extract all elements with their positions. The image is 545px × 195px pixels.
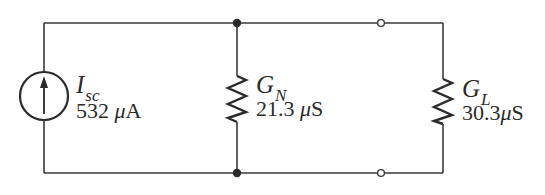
top-terminal-icon bbox=[378, 20, 385, 27]
load-symbol: GL bbox=[462, 76, 524, 101]
norton-value-unit: S bbox=[311, 96, 323, 121]
norton-symbol-subscript: N bbox=[275, 86, 286, 105]
norton-conductance-label: GN 21.3 μS bbox=[256, 72, 323, 120]
source-value-unit: A bbox=[126, 98, 142, 123]
load-value: 30.3μS bbox=[462, 102, 524, 124]
load-conductance-label: GL 30.3μS bbox=[462, 76, 524, 124]
load-value-unit: S bbox=[512, 100, 524, 125]
norton-value: 21.3 μS bbox=[256, 98, 323, 120]
current-source-icon bbox=[20, 72, 68, 120]
load-value-prefix: μ bbox=[501, 100, 512, 125]
source-value-prefix: μ bbox=[115, 98, 126, 123]
circuit-diagram: Isc 532 μA GN 21.3 μS GL 30.3μS bbox=[0, 0, 545, 195]
source-symbol: Isc bbox=[76, 72, 141, 97]
norton-value-prefix: μ bbox=[300, 96, 311, 121]
load-resistor-icon bbox=[434, 79, 452, 124]
load-symbol-letter: G bbox=[462, 75, 480, 102]
top-junction-dot bbox=[233, 19, 241, 27]
source-symbol-subscript: sc bbox=[85, 86, 99, 105]
source-label: Isc 532 μA bbox=[76, 72, 141, 122]
load-symbol-subscript: L bbox=[481, 90, 490, 109]
norton-resistor-icon bbox=[228, 76, 246, 122]
source-symbol-letter: I bbox=[76, 71, 84, 98]
norton-symbol-letter: G bbox=[256, 71, 274, 98]
bottom-junction-dot bbox=[233, 169, 241, 177]
bottom-terminal-icon bbox=[378, 170, 385, 177]
norton-symbol: GN bbox=[256, 72, 323, 97]
